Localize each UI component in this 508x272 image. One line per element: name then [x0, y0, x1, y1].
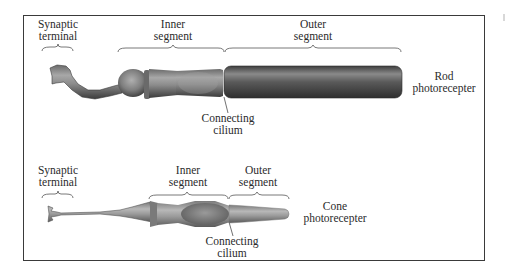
label-line: Inner [163, 164, 213, 176]
rod-photoreceptor-label: Rod photorecepter [409, 70, 479, 94]
label-line: segment [148, 30, 198, 42]
cone-inner-brace [149, 192, 228, 199]
rod-outer-segment-shape [224, 66, 402, 98]
cone-outer-segment-shape [229, 205, 289, 223]
label-line: Cone [295, 200, 375, 212]
label-line: Connecting [202, 235, 262, 247]
cone-synaptic-terminal-label: Synaptic terminal [30, 164, 86, 188]
label-line: cilium [202, 247, 262, 259]
cone-synaptic-brace [42, 191, 73, 198]
label-line: photorecepter [409, 82, 479, 94]
cone-cilium-pointer [229, 222, 233, 236]
cone-connecting-cilium-label: Connecting cilium [202, 235, 262, 259]
rod-inner-segment-label: Inner segment [148, 18, 198, 42]
rod-synaptic-terminal-label: Synaptic terminal [30, 18, 86, 42]
cone-synaptic-terminal-shape [48, 202, 152, 222]
rod-synaptic-terminal-shape [50, 65, 122, 99]
label-line: cilium [198, 124, 258, 136]
label-line: Outer [233, 164, 283, 176]
rod-connecting-cilium-label: Connecting cilium [198, 112, 258, 136]
label-line: photorecepter [295, 212, 375, 224]
cone-outer-brace [229, 192, 289, 199]
cone-inner-segment-shape [150, 201, 230, 227]
rod-cilium-pointer [224, 97, 228, 113]
rod-inner-segment-shape [118, 69, 223, 99]
label-line: terminal [30, 176, 86, 188]
label-line: Outer [288, 18, 338, 30]
label-line: segment [288, 30, 338, 42]
label-line: Synaptic [30, 164, 86, 176]
label-line: Rod [409, 70, 479, 82]
label-line: segment [233, 176, 283, 188]
label-line: Synaptic [30, 18, 86, 30]
label-line: Inner [148, 18, 198, 30]
label-line: segment [163, 176, 213, 188]
rod-outer-segment-label: Outer segment [288, 18, 338, 42]
label-line: terminal [30, 30, 86, 42]
rod-synaptic-brace [42, 44, 73, 51]
rod-inner-brace [118, 45, 224, 52]
rod-outer-brace [225, 45, 401, 52]
cone-inner-segment-label: Inner segment [163, 164, 213, 188]
label-line: Connecting [198, 112, 258, 124]
cone-photoreceptor-label: Cone photorecepter [295, 200, 375, 224]
cone-outer-segment-label: Outer segment [233, 164, 283, 188]
